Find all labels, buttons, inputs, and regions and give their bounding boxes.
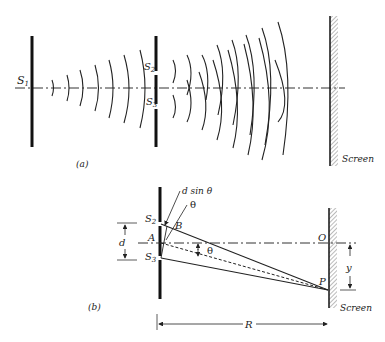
perpendicular-b <box>161 226 167 258</box>
label-dsin: d sin θ <box>182 186 213 196</box>
ray-s2-p <box>161 224 328 290</box>
label-y: y <box>345 262 352 273</box>
label-r: R <box>244 319 253 330</box>
label-screen-b: Screen <box>340 303 372 313</box>
ray-a-p <box>161 243 328 290</box>
label-s2-a: S2 <box>144 61 156 74</box>
label-theta-mid: θ <box>207 245 213 256</box>
wavefronts-s1 <box>52 50 145 128</box>
label-theta-top: θ <box>190 199 196 210</box>
label-s3-b: S3 <box>145 251 157 264</box>
label-s2-b: S2 <box>145 213 157 226</box>
screen-a-hatch <box>330 16 338 166</box>
label-p: P <box>318 276 326 287</box>
ray-s3-p <box>161 258 328 290</box>
label-b: B <box>174 220 182 231</box>
caption-a: (a) <box>76 159 89 169</box>
label-d: d <box>119 237 125 248</box>
label-s1: S1 <box>17 74 29 88</box>
label-o: O <box>318 232 326 243</box>
figure-b: d sin θ θ θ S2 S3 A B d O P y R Screen (… <box>88 186 372 330</box>
wavefronts-s3 <box>173 38 285 160</box>
caption-b: (b) <box>88 302 101 312</box>
label-a: A <box>147 232 155 243</box>
figure-a: S1 S2 S3 Screen (a) <box>15 16 374 169</box>
screen-b-hatch <box>329 208 337 308</box>
double-slit-diagram: S1 S2 S3 Screen (a) <box>0 0 385 342</box>
label-screen-a: Screen <box>342 154 374 164</box>
